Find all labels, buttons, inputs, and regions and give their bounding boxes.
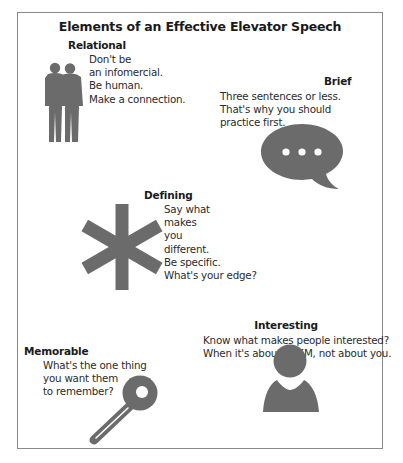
interesting-heading: Interesting <box>236 319 336 331</box>
relational-heading: Relational <box>68 39 126 51</box>
text-line: an infomercial. <box>89 66 185 79</box>
speech-bubble-icon <box>260 123 344 191</box>
text-line: Three sentences or less. <box>220 90 341 103</box>
person-icon <box>263 344 325 414</box>
text-line: That's why you should <box>220 103 341 116</box>
diagram-frame: Elements of an Effective Elevator Speech… <box>17 12 383 449</box>
text-line: What's the one thing <box>43 359 147 372</box>
text-line: What's your edge? <box>164 269 257 282</box>
text-line: Be human. <box>89 79 185 92</box>
text-line: different. <box>164 243 257 256</box>
diagram-title: Elements of an Effective Elevator Speech <box>18 19 382 34</box>
two-people-icon <box>43 62 87 144</box>
text-line: Say what <box>164 203 257 216</box>
text-line: Make a connection. <box>89 93 185 106</box>
text-line: Don't be <box>89 53 185 66</box>
key-icon <box>86 374 162 450</box>
defining-heading: Defining <box>144 189 192 201</box>
defining-text: Say what makes you different. Be specifi… <box>164 203 257 282</box>
text-line: makes <box>164 216 257 229</box>
brief-heading: Brief <box>324 75 351 87</box>
asterisk-icon <box>80 204 164 290</box>
relational-text: Don't be an infomercial. Be human. Make … <box>89 53 185 106</box>
text-line: you <box>164 229 257 242</box>
text-line: Be specific. <box>164 256 257 269</box>
memorable-heading: Memorable <box>24 345 88 357</box>
